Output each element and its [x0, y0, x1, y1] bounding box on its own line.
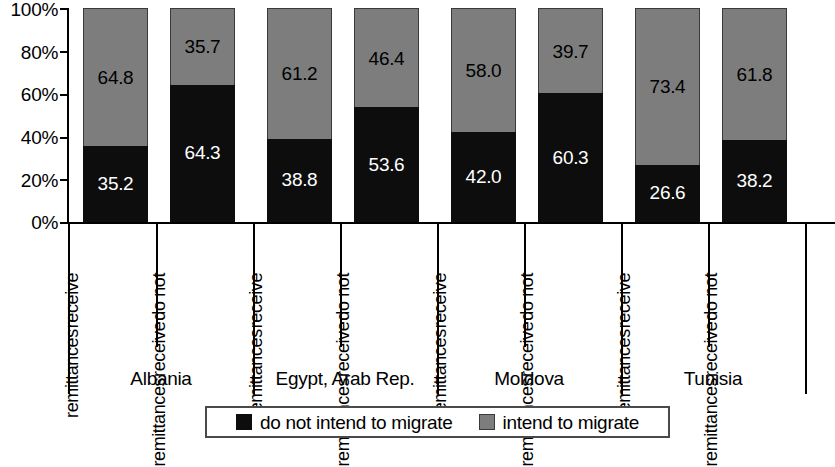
x-axis-category-band: receive remittances do not receive remit…: [69, 224, 809, 394]
y-tick-label-40: 40%: [0, 128, 58, 147]
bar-segment-intend: 64.8: [83, 8, 148, 146]
bar-value-intend: 61.2: [282, 64, 318, 83]
bar-segment-do-not-intend: 53.6: [354, 107, 419, 222]
bar-tunisia-do-not-receive: 61.8 38.2: [722, 8, 787, 222]
bar-value-intend: 73.4: [650, 77, 686, 96]
bar-moldova-receive: 58.0 42.0: [451, 8, 516, 222]
bar-value-do-not-intend: 38.8: [282, 170, 318, 189]
category-label-line: remittances: [700, 377, 722, 467]
bar-value-intend: 58.0: [466, 61, 502, 80]
category-label-line: remittances: [148, 377, 170, 467]
category-label-line: receive: [613, 272, 635, 328]
category-label-line: receive: [245, 272, 267, 328]
category-label-line: do not: [700, 272, 722, 321]
chart-legend: do not intend to migrate intend to migra…: [205, 406, 670, 438]
bar-segment-intend: 35.7: [170, 8, 235, 85]
bar-segment-do-not-intend: 38.8: [267, 139, 332, 222]
legend-item-do-not-intend-to-migrate[interactable]: do not intend to migrate: [236, 413, 452, 432]
bar-value-do-not-intend: 42.0: [466, 167, 502, 186]
bar-segment-do-not-intend: 38.2: [722, 140, 787, 222]
y-axis: 100% 80% 60% 40% 20% 0%: [0, 0, 58, 232]
bar-albania-receive: 64.8 35.2: [83, 8, 148, 222]
bar-value-do-not-intend: 35.2: [98, 174, 134, 193]
group-label-moldova: Moldova: [437, 369, 621, 388]
category-label-line: receive: [429, 272, 451, 328]
bar-segment-intend: 61.2: [267, 8, 332, 139]
bar-value-intend: 64.8: [98, 68, 134, 87]
bar-segment-intend: 61.8: [722, 8, 787, 140]
group-label-egypt: Egypt, Arab Rep.: [253, 369, 437, 388]
bar-segment-intend: 46.4: [354, 8, 419, 107]
group-separator: [805, 224, 807, 394]
category-label-line: do not: [148, 272, 170, 321]
bar-segment-intend: 39.7: [538, 8, 603, 93]
bar-value-do-not-intend: 60.3: [553, 148, 589, 167]
group-label-tunisia: Tunisia: [621, 369, 805, 388]
plot-area: 64.8 35.2 35.7 64.3 61.2 38.8 46.4: [69, 8, 809, 222]
bar-segment-intend: 73.4: [635, 8, 700, 165]
bar-egypt-do-not-receive: 46.4 53.6: [354, 8, 419, 222]
bar-segment-intend: 58.0: [451, 8, 516, 132]
legend-swatch-icon-gray: [479, 414, 495, 430]
bar-segment-do-not-intend: 35.2: [83, 146, 148, 222]
category-label-line: do not: [332, 272, 354, 321]
category-label-line: do not: [516, 272, 538, 321]
bar-egypt-receive: 61.2 38.8: [267, 8, 332, 222]
group-label-albania: Albania: [69, 369, 253, 388]
bar-value-do-not-intend: 26.6: [650, 183, 686, 202]
bar-albania-do-not-receive: 35.7 64.3: [170, 8, 235, 222]
bar-tunisia-receive: 73.4 26.6: [635, 8, 700, 222]
y-tick-label-20: 20%: [0, 171, 58, 190]
legend-item-intend-to-migrate[interactable]: intend to migrate: [479, 413, 639, 432]
category-label-line: receive: [61, 272, 83, 328]
bar-value-intend: 46.4: [369, 49, 405, 68]
legend-label: intend to migrate: [503, 413, 639, 432]
bar-value-intend: 61.8: [737, 65, 773, 84]
bar-value-intend: 39.7: [553, 42, 589, 61]
bar-value-do-not-intend: 38.2: [737, 171, 773, 190]
legend-label: do not intend to migrate: [260, 413, 452, 432]
y-tick-label-60: 60%: [0, 85, 58, 104]
y-tick-label-80: 80%: [0, 43, 58, 62]
bar-value-do-not-intend: 64.3: [185, 143, 221, 162]
bar-segment-do-not-intend: 26.6: [635, 165, 700, 222]
y-tick-label-0: 0%: [0, 213, 58, 232]
bar-value-intend: 35.7: [185, 37, 221, 56]
y-tick-label-100: 100%: [0, 0, 58, 19]
bar-segment-do-not-intend: 64.3: [170, 85, 235, 222]
legend-swatch-icon-black: [236, 414, 252, 430]
bar-segment-do-not-intend: 42.0: [451, 132, 516, 222]
bar-moldova-do-not-receive: 39.7 60.3: [538, 8, 603, 222]
bar-value-do-not-intend: 53.6: [369, 155, 405, 174]
bar-segment-do-not-intend: 60.3: [538, 93, 603, 222]
